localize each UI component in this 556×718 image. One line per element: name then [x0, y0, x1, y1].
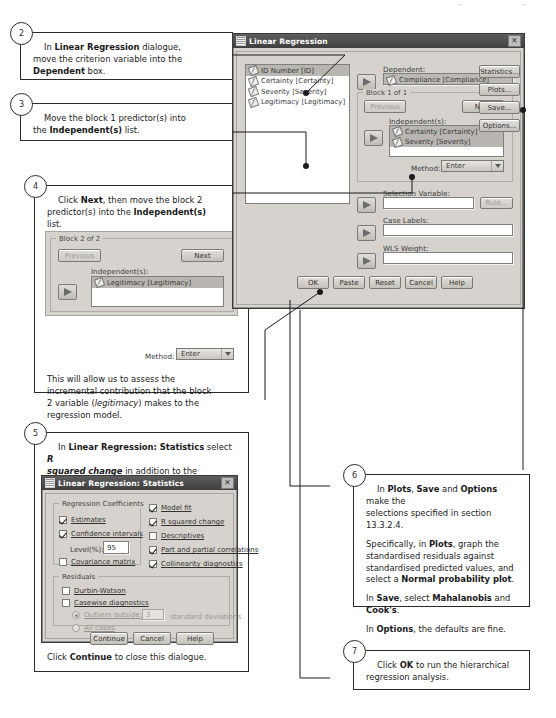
callout-step-7-number: 7	[343, 640, 366, 663]
source-variable-item[interactable]: Certainty [Certainty]	[246, 76, 349, 87]
s6-p2a: Specifically, in	[366, 539, 429, 549]
callout-step-4: 4 Click Next, then move the block 2 pred…	[34, 185, 249, 393]
method-value: Enter	[446, 162, 491, 170]
dependent-value: Compliance [Compliance]	[399, 76, 489, 84]
s6-p3b1: Save	[376, 593, 399, 603]
s6-b2: Save	[417, 484, 440, 494]
estimates-checkbox[interactable]: Estimates	[59, 516, 106, 524]
move-to-selection-button[interactable]	[357, 197, 376, 213]
arrow-right-icon	[363, 78, 371, 86]
callout-step-2-number: 2	[10, 22, 33, 45]
previous-button[interactable]: Previous	[364, 100, 406, 113]
source-variable-item[interactable]: Severity [Severity]	[246, 86, 349, 97]
block2-independents-list[interactable]: Legitimacy [Legitimacy]	[91, 276, 224, 307]
statistics-window: Linear Regression: Statistics ✕ Regressi…	[41, 475, 238, 643]
continue-button[interactable]: Continue	[90, 632, 128, 645]
s4-n3i: legitimacy	[95, 398, 139, 408]
selection-variable-field[interactable]	[383, 197, 474, 209]
s6-p4b: , the defaults are fine.	[413, 624, 506, 634]
reset-button[interactable]: Reset	[369, 276, 401, 289]
s6-d: make the	[366, 496, 405, 506]
s5-b2: R	[47, 454, 53, 464]
linear-regression-window: Linear Regression ✕ ID Number [ID] Certa…	[232, 33, 525, 309]
regression-coefficients-label: Regression Coefficients	[59, 500, 147, 508]
block2-method-value: Enter	[181, 350, 221, 358]
s6-a: In	[377, 484, 387, 494]
block2-move-independent-button[interactable]	[58, 284, 77, 300]
casewise-diagnostics-label: Casewise diagnostics	[74, 599, 149, 607]
callout-step-7: 7 Click OK to run the hierarchical regre…	[353, 650, 530, 690]
source-variable-label: Legitimacy [Legitimacy]	[261, 98, 345, 106]
descriptives-checkbox[interactable]: Descriptives	[149, 532, 204, 540]
help-button[interactable]: Help	[441, 276, 473, 289]
level-input[interactable]: 95	[103, 541, 129, 554]
model-fit-checkbox[interactable]: Model fit	[149, 504, 191, 512]
ruler-icon	[392, 136, 404, 148]
move-to-independents-button[interactable]	[364, 130, 383, 146]
arrow-right-icon	[363, 201, 371, 209]
statistics-body: Regression Coefficients Estimates Confid…	[45, 493, 234, 639]
block2-next-button[interactable]: Next	[181, 249, 224, 262]
s2-t1: In	[44, 42, 54, 52]
s4-t2: , then move the block 2	[103, 195, 203, 205]
s7-t1: Click	[377, 660, 400, 670]
s6-p3l2c: .	[397, 605, 400, 615]
checkbox-icon	[59, 530, 67, 538]
callout-step-4-text: Click Next, then move the block 2 predic…	[35, 186, 248, 233]
source-variable-list[interactable]: ID Number [ID] Certainty [Certainty] Sev…	[245, 64, 350, 204]
outliers-outside-radio[interactable]: Outliers outside:	[72, 611, 142, 619]
covariance-matrix-checkbox[interactable]: Covariance matrix	[59, 558, 135, 566]
checkbox-icon	[149, 504, 157, 512]
s5-t2: select	[204, 442, 232, 452]
case-labels-field[interactable]	[383, 224, 513, 236]
source-variable-item[interactable]: ID Number [ID]	[246, 65, 349, 76]
s2-b2: Dependent	[33, 66, 85, 76]
ruler-icon	[248, 96, 260, 108]
method-label: Method:	[411, 164, 440, 173]
arrow-right-icon	[363, 229, 371, 237]
close-icon[interactable]: ✕	[508, 35, 521, 47]
top-mark-right: ⌐	[522, 1, 527, 8]
s4-t3: predictor(s) into the	[47, 207, 134, 217]
all-cases-radio[interactable]: All cases	[72, 624, 115, 632]
model-fit-label: Model fit	[161, 504, 191, 512]
outliers-value-input[interactable]: 3	[142, 609, 164, 620]
block2-method-select[interactable]: Enter	[176, 348, 234, 360]
durbin-watson-checkbox[interactable]: Durbin-Watson	[62, 587, 126, 595]
plots-button[interactable]: Plots...	[479, 83, 520, 96]
move-to-dependent-button[interactable]	[357, 74, 376, 90]
part-partial-correlations-checkbox[interactable]: Part and partial correlations	[149, 546, 258, 554]
ok-button[interactable]: OK	[297, 276, 329, 289]
chevron-down-icon[interactable]	[491, 161, 503, 171]
options-button[interactable]: Options...	[479, 119, 520, 132]
block2-independent-item[interactable]: Legitimacy [Legitimacy]	[92, 277, 223, 288]
s4-n3p: ) makes to the	[138, 398, 199, 408]
confidence-intervals-checkbox[interactable]: Confidence intervals	[59, 530, 143, 538]
stats-cancel-button[interactable]: Cancel	[133, 632, 171, 645]
s7-t2: to run the hierarchical	[413, 660, 509, 670]
move-to-case-labels-button[interactable]	[357, 225, 376, 241]
move-to-wls-button[interactable]	[357, 253, 376, 269]
callout-step-2-text: In Linear Regression dialogue, move the …	[21, 33, 232, 86]
rule-button[interactable]: Rule...	[480, 197, 513, 209]
paste-button[interactable]: Paste	[333, 276, 365, 289]
cancel-button[interactable]: Cancel	[405, 276, 437, 289]
wls-weight-field[interactable]	[383, 252, 513, 264]
s5-b1: Linear Regression: Statistics	[68, 442, 204, 452]
callout-step-5: 5 In Linear Regression: Statistics selec…	[34, 432, 249, 672]
block2-method-label: Method:	[145, 352, 174, 361]
statistics-button[interactable]: Statistics...	[479, 65, 520, 78]
independent-item[interactable]: Severity [Severity]	[390, 137, 503, 148]
callout-step-6-text: In Plots, Save and Options make the sele…	[354, 475, 529, 644]
save-button[interactable]: Save...	[479, 101, 520, 114]
method-select[interactable]: Enter	[441, 160, 504, 172]
source-variable-item[interactable]: Legitimacy [Legitimacy]	[246, 97, 349, 108]
block2-previous-button[interactable]: Previous	[58, 249, 101, 262]
callout-step-5-footer: Click Continue to close this dialogue.	[47, 652, 207, 664]
close-icon[interactable]: ✕	[221, 477, 234, 489]
casewise-diagnostics-checkbox[interactable]: Casewise diagnostics	[62, 599, 149, 607]
stats-help-button[interactable]: Help	[176, 632, 214, 645]
collinearity-diagnostics-checkbox[interactable]: Collinearity diagnostics	[149, 560, 243, 568]
r-squared-change-checkbox[interactable]: R squared change	[149, 518, 224, 526]
chevron-down-icon[interactable]	[221, 349, 233, 359]
